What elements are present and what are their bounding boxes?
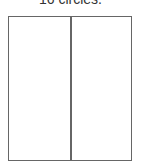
vertical-divider bbox=[70, 17, 72, 160]
diagram-caption: 16 circles. bbox=[0, 0, 141, 7]
rectangle-outline bbox=[8, 16, 132, 161]
